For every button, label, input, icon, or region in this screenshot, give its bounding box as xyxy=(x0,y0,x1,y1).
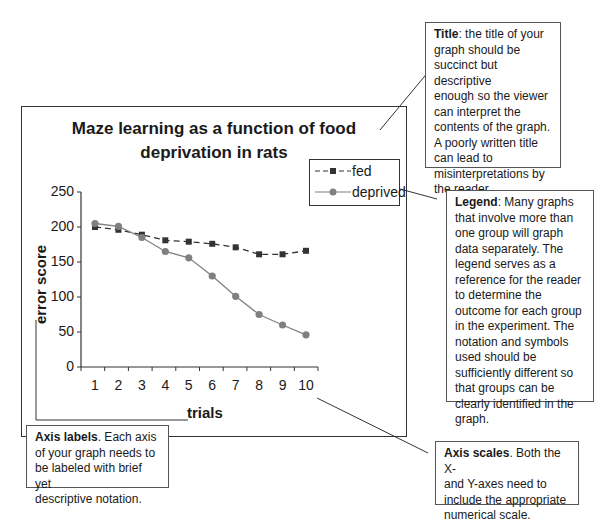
note-heading: Axis scales xyxy=(444,446,509,460)
note-heading: Axis labels xyxy=(35,430,98,444)
axis-labels-connector-line xyxy=(36,320,188,420)
note-heading: Legend xyxy=(455,195,498,209)
title-annotation-box: Title: the title of yourgraph should bes… xyxy=(425,22,561,168)
legend-annotation-box: Legend: Many graphsthat involve more tha… xyxy=(446,190,594,402)
axis-labels-annotation-box: Axis labels. Each axisof your graph need… xyxy=(26,425,169,488)
axis-scales-annotation-box: Axis scales. Both the X-and Y-axes need … xyxy=(435,441,579,505)
axis-scales-connector-line xyxy=(317,398,428,453)
legend-connector-line xyxy=(400,189,437,199)
note-heading: Title xyxy=(434,27,458,41)
